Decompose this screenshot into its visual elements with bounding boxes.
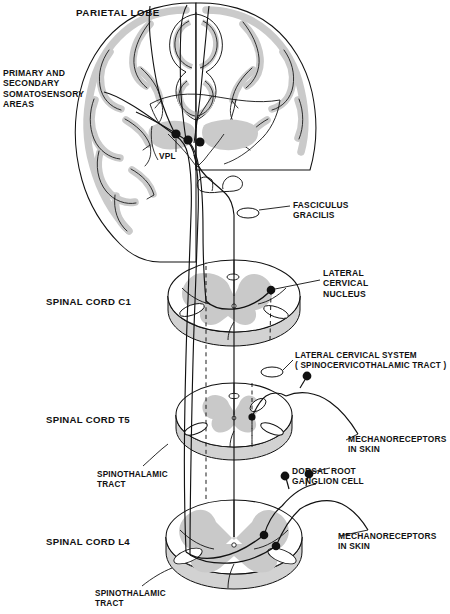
label-dorsal-root-ganglion-cell: DORSAL ROOT GANGLION CELL [292,466,364,487]
t5-drg-cell [303,372,312,381]
label-spinal-cord-c1: SPINAL CORD C1 [46,296,131,308]
label-spinal-cord-l4: SPINAL CORD L4 [46,536,130,548]
vpl-neuron-3 [195,137,204,146]
label-mechanoreceptors-t5: MECHANORECEPTORS IN SKIN [348,434,446,455]
l4-peripheral-fiber-a [300,501,368,530]
c1-dorsal-column-marker [227,274,239,280]
label-lateral-cervical-system: LATERAL CERVICAL SYSTEM ( SPINOCERVICOTH… [295,351,446,371]
leader-lcs [283,360,293,370]
t5-peripheral-fiber [286,393,358,434]
vpl-neuron-2 [183,135,192,144]
label-spinothalamic-tract-l4: SPINOTHALAMIC TRACT [95,589,166,609]
label-lateral-cervical-nucleus: LATERAL CERVICAL NUCLEUS [323,268,368,299]
l4-drg-cell-a [281,472,290,481]
fasciculus-gracilis-marker [237,208,259,218]
label-parietal-lobe: PARIETAL LOBE [76,7,160,19]
medulla-outline [197,176,242,193]
label-spinal-cord-t5: SPINAL CORD T5 [46,414,130,426]
label-vpl: VPL [159,151,176,161]
leader-spino-l4 [142,568,172,586]
label-mechanoreceptors-l4: MECHANORECEPTORS IN SKIN [338,531,436,552]
vpl-neuron-1 [171,129,180,138]
figure-canvas: PARIETAL LOBE PRIMARY AND SECONDARY SOMA… [0,0,450,614]
leader-fasciculus [259,206,290,210]
leader-spino-t5 [143,444,168,466]
lateral-cervical-system-marker [261,367,283,377]
l4-peripheral-fiber-b [282,484,316,506]
label-fasciculus-gracilis: FASCICULUS GRACILIS [293,200,349,221]
label-primary-secondary-somatosensory: PRIMARY AND SECONDARY SOMATOSENSORY AREA… [3,68,84,110]
l4-central-canal [232,543,236,547]
label-spinothalamic-tract-t5: SPINOTHALAMIC TRACT [97,470,168,490]
